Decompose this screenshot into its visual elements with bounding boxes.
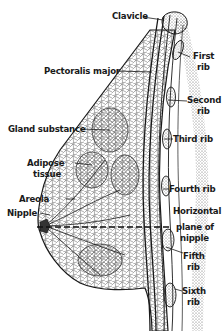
label-sixth-rib-line1: Sixth <box>182 286 206 296</box>
label-second-rib-line2: rib <box>197 106 210 116</box>
label-second-rib-line1: Second <box>187 95 221 105</box>
second-rib <box>167 87 176 107</box>
label-horizontal-line2: plane of <box>176 222 214 232</box>
gland-lobe <box>76 152 108 188</box>
label-first-rib-line2: rib <box>197 62 210 72</box>
label-fifth-rib-line1: Fifth <box>183 251 205 261</box>
breast-anatomy-diagram: Clavicle First rib Pectoralis major Seco… <box>0 0 223 331</box>
label-areola: Areola <box>19 194 49 204</box>
gland-lobe <box>78 244 122 276</box>
label-adipose-line1: Adipose <box>27 158 64 168</box>
sixth-rib <box>164 283 176 307</box>
label-adipose-line2: tissue <box>33 169 61 179</box>
label-pectoralis-major: Pectoralis major <box>44 66 120 76</box>
label-gland-substance: Gland substance <box>8 124 86 134</box>
label-fourth-rib: Fourth rib <box>169 184 215 194</box>
label-third-rib: Third rib <box>173 134 213 144</box>
label-fifth-rib-line2: rib <box>187 262 200 272</box>
label-first-rib-line1: First <box>193 51 214 61</box>
clavicle-bone <box>162 12 187 34</box>
label-clavicle: Clavicle <box>112 11 148 21</box>
label-horizontal-line3: nipple <box>180 233 209 243</box>
gland-lobe <box>111 155 139 195</box>
label-nipple: Nipple <box>7 208 37 218</box>
label-horizontal-line1: Horizontal <box>173 206 221 216</box>
label-sixth-rib-line2: rib <box>187 297 200 307</box>
